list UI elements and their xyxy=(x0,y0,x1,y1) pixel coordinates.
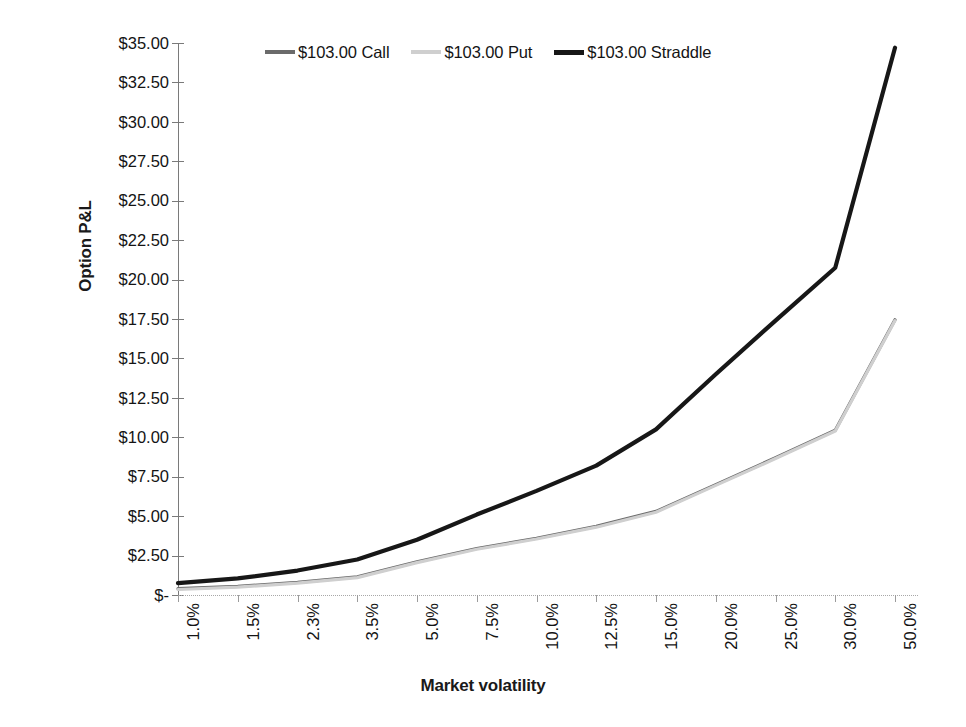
y-axis-tick-label: $22.50 xyxy=(119,231,178,248)
x-axis-tick-label: 25.0% xyxy=(783,603,800,650)
x-axis-tick-mark xyxy=(537,595,538,602)
y-axis-tick-label: $15.00 xyxy=(119,350,178,367)
y-axis-tick-label: $27.50 xyxy=(119,153,178,170)
x-axis-tick-mark xyxy=(596,595,597,602)
x-axis-tick-label: 3.5% xyxy=(364,603,381,641)
x-axis-tick-label: 30.0% xyxy=(842,603,859,650)
x-axis-tick-label: 20.0% xyxy=(723,603,740,650)
x-axis-tick-label: 1.5% xyxy=(245,603,262,641)
y-axis-tick-label: $2.50 xyxy=(128,547,178,564)
x-axis-tick-mark xyxy=(238,595,239,602)
x-axis-tick-mark xyxy=(178,595,179,602)
series-line xyxy=(178,321,895,590)
x-axis-tick-mark xyxy=(298,595,299,602)
zero-baseline xyxy=(178,595,918,596)
y-axis-tick-label: $10.00 xyxy=(119,429,178,446)
y-axis-tick-label: $32.50 xyxy=(119,74,178,91)
x-axis-tick-label: 1.0% xyxy=(185,603,202,641)
y-axis-tick-label: $17.50 xyxy=(119,310,178,327)
y-axis-tick-label: $25.00 xyxy=(119,192,178,209)
chart-root: $103.00 Call$103.00 Put$103.00 Straddle … xyxy=(0,0,966,727)
x-axis-tick-mark xyxy=(656,595,657,602)
x-axis-tick-label: 12.5% xyxy=(603,603,620,650)
x-axis-tick-label: 2.3% xyxy=(305,603,322,641)
x-axis-tick-mark xyxy=(835,595,836,602)
y-axis-tick-label: $5.00 xyxy=(128,507,178,524)
x-axis-tick-mark xyxy=(716,595,717,602)
x-axis-tick-label: 10.0% xyxy=(544,603,561,650)
series-line xyxy=(178,48,895,583)
y-axis-tick-label: $20.00 xyxy=(119,271,178,288)
x-axis-tick-mark xyxy=(895,595,896,602)
x-axis-tick-label: 5.0% xyxy=(424,603,441,641)
x-axis-tick-mark xyxy=(417,595,418,602)
y-axis-tick-label: $12.50 xyxy=(119,389,178,406)
y-axis-tick-label: $35.00 xyxy=(119,34,178,51)
y-axis-tick-label: $30.00 xyxy=(119,113,178,130)
x-axis-tick-label: 15.0% xyxy=(663,603,680,650)
x-axis-tick-label: 50.0% xyxy=(902,603,919,650)
x-axis-tick-mark xyxy=(357,595,358,602)
x-axis-tick-mark xyxy=(776,595,777,602)
x-axis-title: Market volatility xyxy=(0,676,966,696)
x-axis-tick-label: 7.5% xyxy=(484,603,501,641)
y-axis-tick-label: $7.50 xyxy=(128,468,178,485)
x-axis-tick-mark xyxy=(477,595,478,602)
series-lines xyxy=(178,43,895,595)
plot-area xyxy=(178,43,895,595)
y-axis-title: Option P&L xyxy=(76,156,96,336)
